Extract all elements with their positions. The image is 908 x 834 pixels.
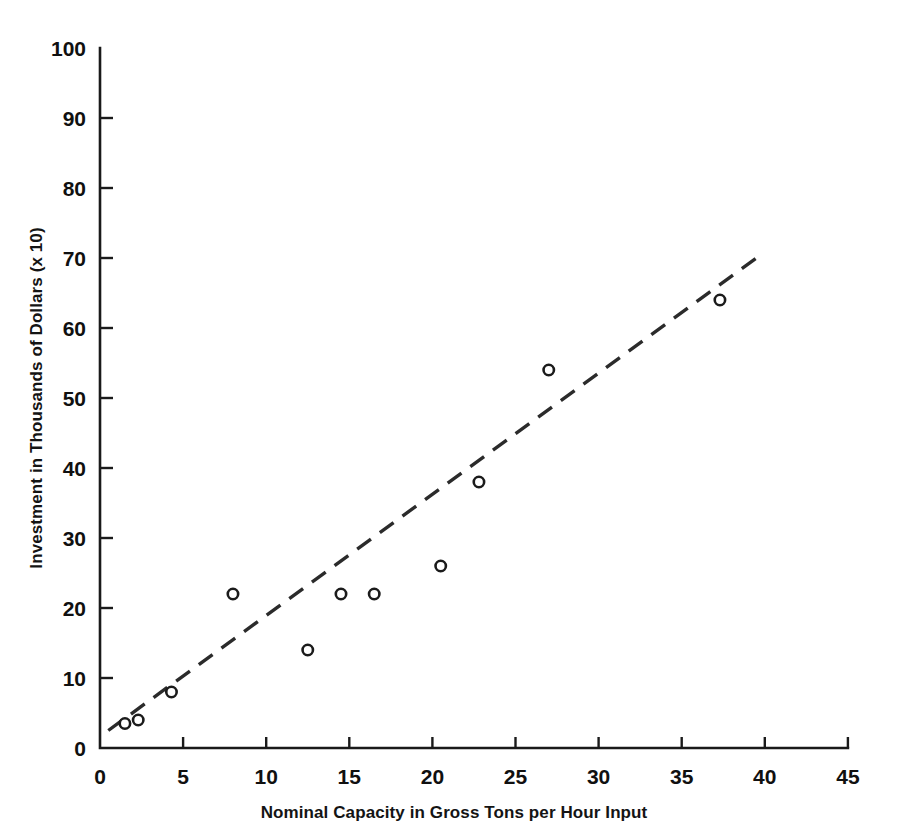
x-tick-label: 40: [753, 765, 776, 788]
data-point: [436, 561, 446, 571]
y-tick-label: 40: [63, 457, 86, 480]
y-tick-label: 50: [63, 387, 86, 410]
y-tick-label: 20: [63, 597, 86, 620]
data-point: [166, 687, 176, 697]
y-tick-label: 60: [63, 317, 86, 340]
x-tick-label: 10: [255, 765, 278, 788]
data-point: [474, 477, 484, 487]
data-point: [133, 715, 143, 725]
x-axis-title: Nominal Capacity in Gross Tons per Hour …: [261, 803, 648, 822]
y-tick-label: 10: [63, 667, 86, 690]
x-tick-label: 0: [94, 765, 106, 788]
x-tick-label: 35: [670, 765, 694, 788]
data-point: [303, 645, 313, 655]
y-tick-label: 90: [63, 107, 86, 130]
y-axis-title: Investment in Thousands of Dollars (x 10…: [27, 227, 46, 568]
x-tick-label: 45: [836, 765, 860, 788]
y-tick-label: 70: [63, 247, 86, 270]
y-tick-label: 0: [74, 737, 86, 760]
x-tick-label: 20: [421, 765, 444, 788]
scatter-chart: 051015202530354045 010203040506070809010…: [0, 0, 908, 834]
data-point: [228, 589, 238, 599]
y-tick-label: 30: [63, 527, 86, 550]
x-tick-label: 5: [177, 765, 189, 788]
x-tick-label: 25: [504, 765, 528, 788]
x-tick-label: 15: [338, 765, 362, 788]
data-point: [369, 589, 379, 599]
data-point: [336, 589, 346, 599]
x-tick-label: 30: [587, 765, 610, 788]
y-tick-label: 80: [63, 177, 86, 200]
data-point: [120, 718, 130, 728]
data-point: [715, 295, 725, 305]
y-tick-label: 100: [51, 37, 86, 60]
data-point: [544, 365, 554, 375]
